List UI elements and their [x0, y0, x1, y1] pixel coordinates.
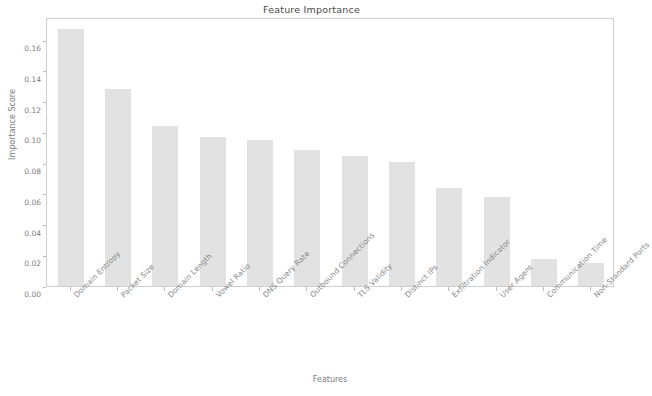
y-tick-label: 0.06 — [24, 198, 46, 208]
y-tick-label: 0.16 — [24, 44, 46, 54]
x-axis-ticks: Domain EntropyPacket SizeDomain LengthVo… — [46, 287, 614, 387]
x-tick-mark — [70, 287, 71, 291]
x-tick-mark — [543, 287, 544, 291]
x-tick-mark — [164, 287, 165, 291]
y-tick-label: 0.08 — [24, 167, 46, 177]
plot-area — [46, 18, 614, 287]
x-tick-mark — [117, 287, 118, 291]
bar — [58, 29, 84, 286]
y-tick: 0.00 — [0, 282, 46, 292]
x-tick-mark — [448, 287, 449, 291]
bar — [247, 140, 273, 286]
chart-title: Feature Importance — [0, 4, 623, 15]
bar — [152, 126, 178, 286]
x-tick-mark — [212, 287, 213, 291]
y-axis-label: Importance Score — [8, 45, 17, 205]
x-tick-mark — [496, 287, 497, 291]
x-axis-label: Features — [46, 375, 614, 384]
x-tick-mark — [590, 287, 591, 291]
x-tick-mark — [401, 287, 402, 291]
x-tick-mark — [259, 287, 260, 291]
bar — [531, 259, 557, 286]
y-tick-label: 0.14 — [24, 75, 46, 85]
x-tick-mark — [354, 287, 355, 291]
y-tick-label: 0.04 — [24, 229, 46, 239]
x-tick-mark — [306, 287, 307, 291]
y-tick: 0.04 — [0, 221, 46, 231]
bar — [436, 188, 462, 286]
y-tick-label: 0.00 — [24, 290, 46, 300]
y-tick-label: 0.12 — [24, 106, 46, 116]
y-tick-label: 0.02 — [24, 259, 46, 269]
y-tick: 0.02 — [0, 251, 46, 261]
bars-layer — [47, 19, 613, 286]
y-tick-label: 0.10 — [24, 136, 46, 146]
